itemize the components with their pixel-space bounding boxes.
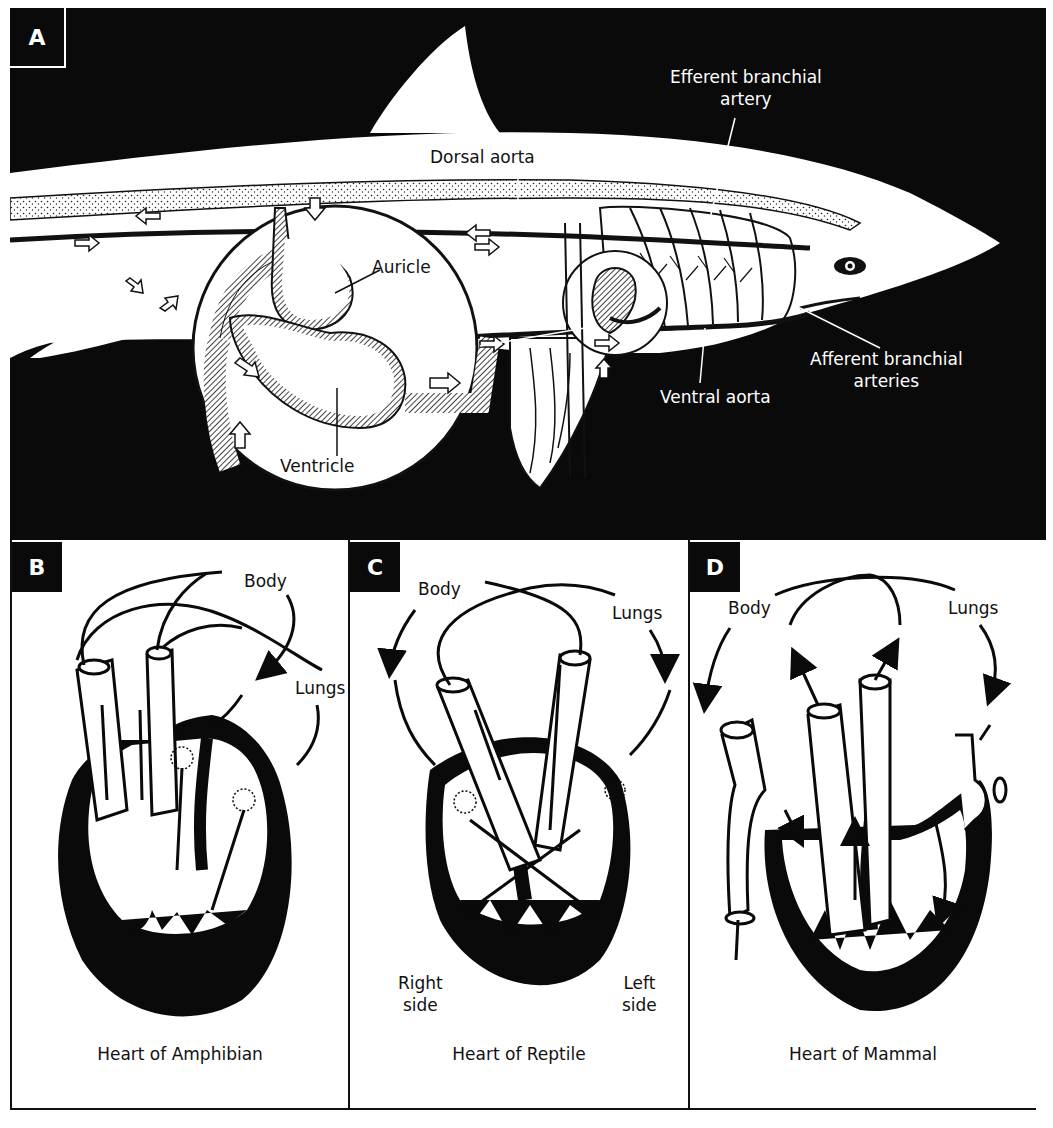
panel-letter-c: C <box>350 542 400 592</box>
circulatory-system-figure: A Efferent branchial artery Dorsal aorta… <box>0 0 1053 1128</box>
label-dorsal-aorta: Dorsal aorta <box>430 146 535 168</box>
pectoral-fin <box>510 338 610 488</box>
label-ventricle: Ventricle <box>280 455 354 477</box>
panel-b-amphibian-heart: B Body Lungs Heart of Amphibian <box>12 540 350 1108</box>
label-body: Body <box>418 578 461 600</box>
label-line: Left <box>622 972 657 994</box>
label-line: Right <box>398 972 443 994</box>
label-body: Body <box>244 570 287 592</box>
dorsal-fin <box>370 26 500 133</box>
label-body: Body <box>728 597 771 619</box>
label-lungs: Lungs <box>948 597 998 619</box>
caption-mammal: Heart of Mammal <box>690 1044 1036 1064</box>
shark-illustration <box>10 8 1046 540</box>
label-line: Efferent branchial <box>670 66 822 88</box>
label-efferent-branchial-artery: Efferent branchial artery <box>670 66 822 110</box>
label-line: artery <box>670 88 822 110</box>
label-auricle: Auricle <box>372 256 431 278</box>
label-afferent-branchial-arteries: Afferent branchial arteries <box>810 348 963 392</box>
label-line: Afferent branchial <box>810 348 963 370</box>
vena-cava <box>722 720 765 918</box>
amphibian-heart-illustration <box>12 540 348 1108</box>
reptile-heart-illustration <box>350 540 688 1108</box>
label-lungs: Lungs <box>612 602 662 624</box>
label-right-side: Right side <box>398 972 443 1016</box>
label-ventral-aorta: Ventral aorta <box>660 386 771 408</box>
label-lungs: Lungs <box>295 677 345 699</box>
panel-a-shark: A Efferent branchial artery Dorsal aorta… <box>10 8 1046 540</box>
heart-comparison-row: B Body Lungs Heart of Amphibian <box>10 540 1036 1110</box>
panel-letter-a: A <box>10 8 66 68</box>
caption-reptile: Heart of Reptile <box>350 1044 688 1064</box>
label-line: side <box>622 994 657 1016</box>
label-line: side <box>398 994 443 1016</box>
caption-amphibian: Heart of Amphibian <box>12 1044 348 1064</box>
panel-letter-d: D <box>690 542 740 592</box>
panel-c-reptile-heart: C Body Lungs Right side Left side Heart … <box>350 540 690 1108</box>
panel-letter-b: B <box>12 542 62 592</box>
vessel-trunk <box>147 650 177 815</box>
panel-d-mammal-heart: D Body Lungs Heart of Mammal <box>690 540 1036 1108</box>
mammal-heart-illustration <box>690 540 1034 1108</box>
label-line: arteries <box>810 370 963 392</box>
label-left-side: Left side <box>622 972 657 1016</box>
